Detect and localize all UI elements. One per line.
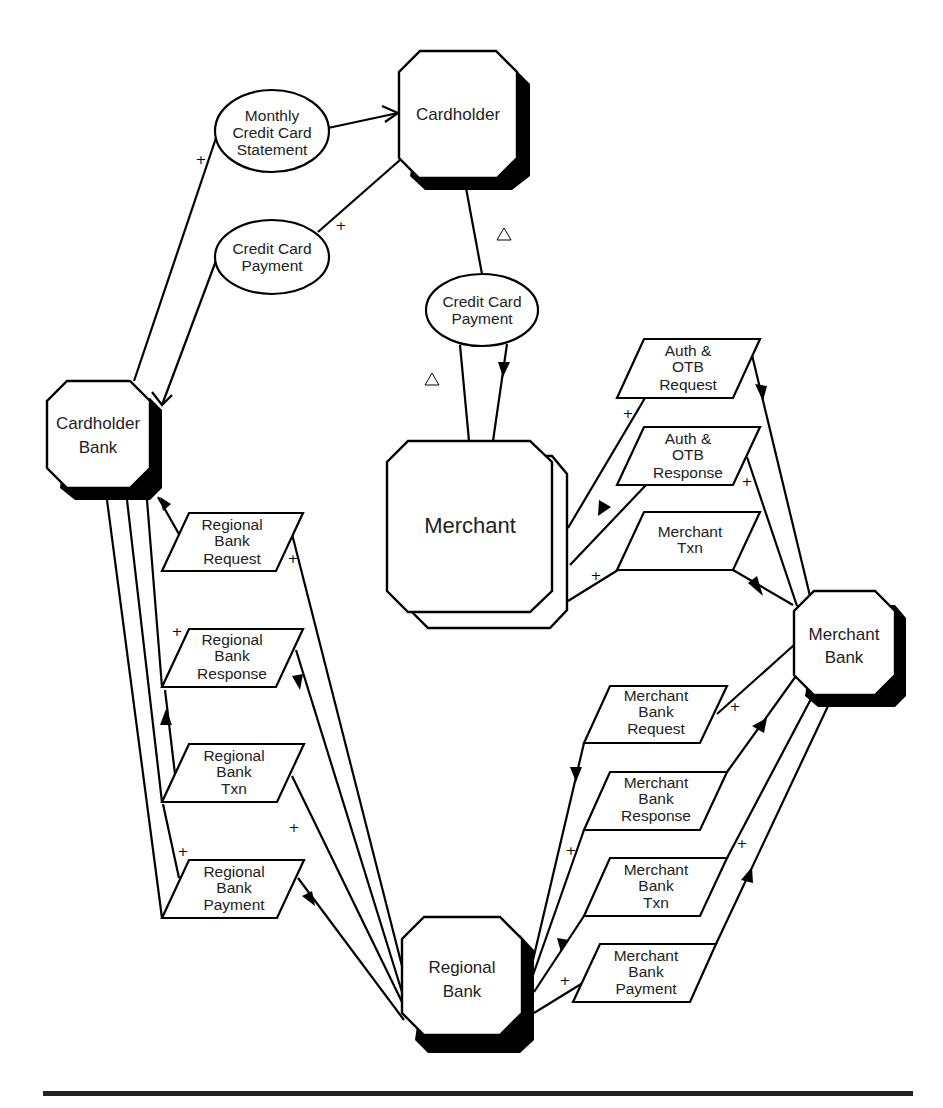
cross-marker: + [730,699,741,714]
node-label: Bank [79,438,118,457]
flow-auth-otb-response[interactable]: Auth & OTB Response [617,427,760,485]
cross-marker: + [336,218,347,233]
flow-merchant-bank-response[interactable]: Merchant Bank Response [584,772,727,830]
flow-label: Bank [216,763,252,780]
filled-arrow-icon [292,674,303,690]
cross-marker: + [623,406,634,421]
edge-mb-request-to-mbank [717,645,794,714]
flow-label: Bank [628,963,664,980]
flow-label: Response [653,464,723,481]
flow-label: Merchant [658,523,723,540]
flow-label: Response [197,665,267,682]
cross-marker: + [172,624,183,639]
ellipse-label: Credit Card [442,293,521,310]
edge-rb-txn-to-regional [292,776,402,1002]
edge-cbank-to-rb-payment [163,804,179,878]
node-label: Merchant [809,625,880,644]
edge-mbank-to-mb-txn [727,697,812,858]
flow-merchant-txn[interactable]: Merchant Txn [617,512,760,570]
ellipse-label: Payment [241,257,303,274]
cross-marker: + [742,474,753,489]
flow-label: Request [203,550,261,567]
cross-marker: + [566,843,577,858]
flow-label: OTB [672,446,704,463]
flow-label: Auth & [665,342,712,359]
flow-merchant-bank-payment[interactable]: Merchant Bank Payment [573,944,716,1002]
cross-marker: + [560,973,571,988]
cross-marker: + [178,844,189,859]
edge-cbank-rb-txn [127,500,162,802]
node-merchant-bank[interactable]: Merchant Bank [794,591,906,707]
flow-label: Bank [214,532,250,549]
edge-ccpay-left-to-cbank [162,258,217,405]
cross-marker: + [591,568,602,583]
ellipse-label: Credit Card [232,240,311,257]
flow-label: Payment [615,980,677,997]
cross-marker: + [196,152,207,167]
filled-arrow-icon [741,867,753,883]
ellipse-label: Statement [237,141,308,158]
flow-label: Regional [201,631,262,648]
flow-label: Payment [203,896,265,913]
node-cardholder-bank[interactable]: Cardholder Bank [47,381,162,500]
node-label: Merchant [424,513,516,538]
delta-icon [497,228,511,240]
flow-label: Merchant [624,687,689,704]
flow-merchant-bank-txn[interactable]: Merchant Bank Txn [584,858,727,916]
flow-label: Regional [203,863,264,880]
edge-cardholder-to-ccpay-left [318,160,400,232]
edge-rb-request-to-regional [292,534,402,966]
flow-label: Auth & [665,430,712,447]
flow-label: Bank [216,879,252,896]
flow-label: Request [659,376,717,393]
edge-regional-to-rb-response [296,650,402,992]
filled-arrow-icon [160,709,172,725]
edge-merchant-txn-to-mbank [733,570,793,605]
edge-ccpay-mid-to-merchant-a [460,345,469,441]
flow-label: Txn [221,780,247,797]
flow-label: Bank [638,790,674,807]
flow-regional-bank-txn[interactable]: Regional Bank Txn [162,744,304,802]
edge-mb-payment-to-mbank [716,706,828,944]
flow-label: Response [621,807,691,824]
ellipse-cc-payment-mid[interactable]: Credit Card Payment [426,274,538,346]
payment-flow-diagram: + + + + + + + + + + + + + Monthly Credit… [0,0,943,1108]
flow-label: Bank [214,647,250,664]
flow-label: Txn [643,894,669,911]
flow-label: Request [627,720,685,737]
flow-label: Merchant [624,774,689,791]
flow-label: Bank [638,703,674,720]
flow-merchant-bank-request[interactable]: Merchant Bank Request [584,686,727,743]
delta-icon [425,373,439,385]
filled-arrow-icon [752,718,767,733]
flow-label: Merchant [624,861,689,878]
ellipse-cc-payment-left[interactable]: Credit Card Payment [215,220,329,294]
filled-arrow-icon [302,891,315,906]
flow-label: Regional [203,747,264,764]
edge-ccpay-mid-to-merchant-b [493,344,507,441]
node-label: Cardholder [56,414,140,433]
node-label: Bank [825,648,864,667]
node-merchant[interactable]: Merchant [387,441,567,628]
flow-regional-bank-payment[interactable]: Regional Bank Payment [162,860,304,918]
node-label: Cardholder [416,105,500,124]
flow-regional-bank-request[interactable]: Regional Bank Request [162,513,303,571]
node-regional-bank[interactable]: Regional Bank [402,917,534,1053]
flow-regional-bank-response[interactable]: Regional Bank Response [162,629,303,687]
ellipse-label: Credit Card [232,124,311,141]
cross-marker: + [288,551,299,566]
flow-label: Bank [638,877,674,894]
ellipse-label: Payment [451,310,513,327]
flow-auth-otb-request[interactable]: Auth & OTB Request [617,339,760,398]
edge-cardholder-to-ccpay-mid [466,188,482,274]
cross-marker: + [289,820,300,835]
node-cardholder[interactable]: Cardholder [399,51,530,190]
node-label: Bank [443,982,482,1001]
filled-arrow-icon [498,362,510,377]
flow-label: Merchant [614,947,679,964]
filled-arrow-icon [598,500,611,516]
edge-cbank-to-monthly [134,138,216,381]
ellipse-monthly-statement[interactable]: Monthly Credit Card Statement [215,90,329,172]
filled-arrow-icon [755,384,767,401]
horizontal-rule [43,1091,913,1096]
